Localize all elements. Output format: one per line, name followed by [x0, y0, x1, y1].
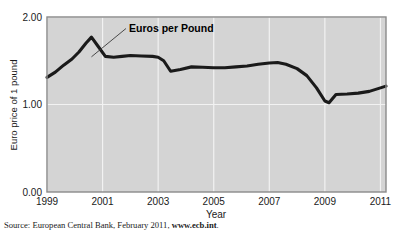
x-axis-tick-label: 2011 [370, 196, 392, 207]
x-axis-tick-label: 2009 [314, 196, 337, 207]
x-axis-tick-label: 2001 [91, 196, 114, 207]
y-axis-tick-label: 2.00 [23, 12, 43, 23]
y-axis-tick-label: 1.00 [23, 99, 43, 110]
euros-per-pound-line-chart: 0.001.002.00 199920012003200520072009201… [0, 0, 405, 239]
source-url-text: www.ecb.int [172, 220, 217, 230]
source-suffix-text: . [217, 220, 219, 230]
chart-figure: 0.001.002.00 199920012003200520072009201… [0, 0, 405, 239]
source-prefix-text: Source: European Central Bank, February … [4, 220, 172, 230]
y-axis-title: Euro price of 1 pound [8, 60, 19, 151]
x-axis-tick-label: 2005 [203, 196, 226, 207]
x-axis-title: Year [206, 209, 227, 220]
source-caption: Source: European Central Bank, February … [4, 220, 219, 230]
series-annotation-label: Euros per Pound [129, 22, 214, 34]
x-axis-tick-label: 2007 [258, 196, 281, 207]
x-axis-tick-label: 1999 [36, 196, 59, 207]
x-axis-tick-label: 2003 [147, 196, 170, 207]
